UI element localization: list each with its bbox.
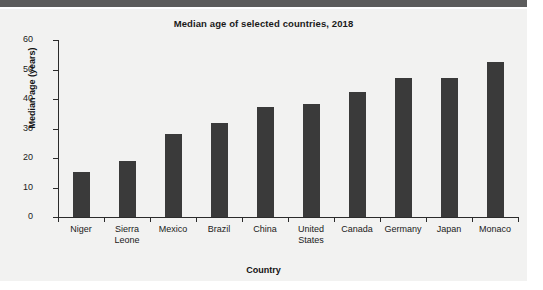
x-axis-tick-label: Germany: [377, 224, 429, 235]
bar: [119, 161, 136, 217]
x-axis-tick-label: Brazil: [193, 224, 245, 235]
y-axis-tick-label: 20: [0, 152, 33, 162]
x-axis-tick-label: Mexico: [147, 224, 199, 235]
y-axis-tick-label: 10: [0, 182, 33, 192]
x-axis-tick: [58, 218, 59, 222]
x-axis-tick-label: Sierra Leone: [101, 224, 153, 245]
bar: [395, 78, 412, 217]
bar: [165, 134, 182, 217]
bar: [211, 123, 228, 217]
x-axis-tick: [380, 218, 381, 222]
page-header-band: [0, 0, 527, 7]
bar: [487, 62, 504, 217]
x-axis-tick: [150, 218, 151, 222]
bar: [303, 104, 320, 217]
x-axis-title: Country: [0, 265, 527, 275]
x-axis-tick: [334, 218, 335, 222]
y-axis-title: Median age (years): [27, 23, 37, 153]
bar: [349, 92, 366, 217]
x-axis-tick-label: Niger: [55, 224, 107, 235]
bar-chart-figure: Median age of selected countries, 2018 0…: [0, 9, 527, 281]
y-axis-tick-label: 0: [0, 211, 33, 221]
x-axis-tick: [104, 218, 105, 222]
bar: [73, 172, 90, 217]
x-axis-tick-label: Canada: [331, 224, 383, 235]
x-axis-tick: [242, 218, 243, 222]
chart-title: Median age of selected countries, 2018: [0, 18, 527, 29]
x-axis-tick-label: China: [239, 224, 291, 235]
x-axis-tick: [426, 218, 427, 222]
x-axis-tick-label: Japan: [423, 224, 475, 235]
x-axis-tick: [288, 218, 289, 222]
plot-area: [58, 40, 518, 217]
x-axis-tick: [196, 218, 197, 222]
figure-page: Median age of selected countries, 2018 0…: [0, 0, 543, 290]
bar: [441, 78, 458, 217]
x-axis-tick: [518, 218, 519, 222]
bar: [257, 107, 274, 217]
x-axis-tick-label: Monaco: [469, 224, 521, 235]
x-axis-tick-label: United States: [285, 224, 337, 245]
x-axis-tick: [472, 218, 473, 222]
